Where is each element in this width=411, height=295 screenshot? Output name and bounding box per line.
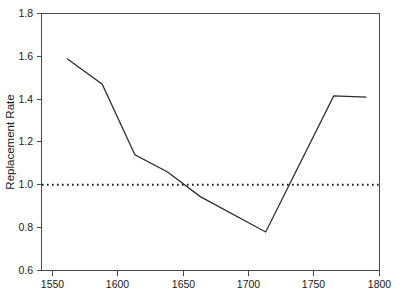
y-tick-label: 1.6 <box>18 50 33 62</box>
x-tick-label: 1650 <box>172 278 196 290</box>
x-tick-label: 1600 <box>106 278 130 290</box>
y-tick-label: 0.6 <box>18 264 33 276</box>
x-tick-label: 1750 <box>302 278 326 290</box>
y-tick-label: 1.0 <box>18 178 33 190</box>
x-tick-label: 1800 <box>368 278 392 290</box>
x-axis-ticks <box>53 271 380 276</box>
plot-frame <box>42 14 380 271</box>
y-tick-label: 1.4 <box>18 93 33 105</box>
y-tick-label: 1.2 <box>18 135 33 147</box>
x-tick-label: 1550 <box>41 278 65 290</box>
y-tick-label: 0.8 <box>18 221 33 233</box>
y-axis-title: Replacement Rate <box>4 94 16 189</box>
y-tick-label: 1.8 <box>18 7 33 19</box>
replacement-rate-series <box>67 58 367 231</box>
y-axis-tick-labels: 1.8 1.6 1.4 1.2 1.0 0.8 0.6 <box>18 7 33 276</box>
x-axis-tick-labels: 1550 1600 1650 1700 1750 1800 <box>41 278 392 290</box>
x-tick-label: 1700 <box>237 278 261 290</box>
replacement-rate-line-chart: 1.8 1.6 1.4 1.2 1.0 0.8 0.6 1550 1600 16… <box>0 0 411 295</box>
chart-figure: 1.8 1.6 1.4 1.2 1.0 0.8 0.6 1550 1600 16… <box>0 0 411 295</box>
y-axis-ticks <box>37 14 42 271</box>
